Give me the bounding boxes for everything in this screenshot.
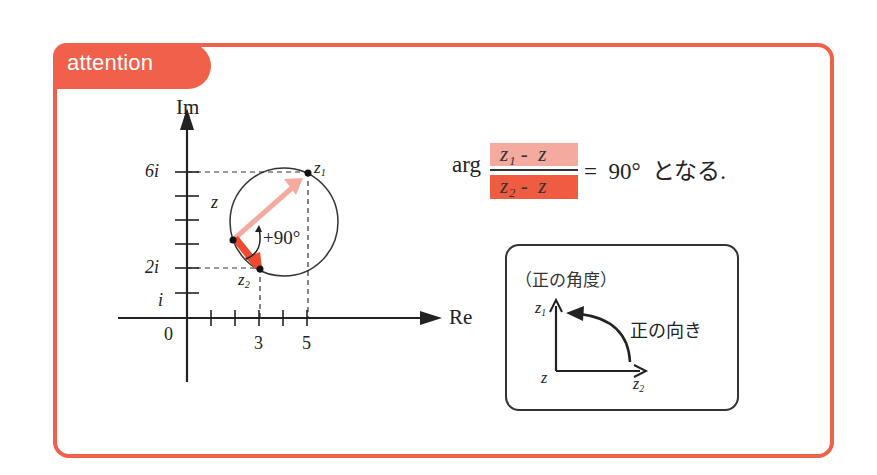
re-axis-arrow-icon	[420, 311, 442, 325]
inset-z2-label: z2	[633, 375, 644, 394]
inset-direction-label: 正の向き	[630, 316, 702, 342]
point-z	[230, 237, 237, 244]
x-tick-label-3: 3	[254, 333, 263, 354]
point-z2	[257, 266, 264, 273]
point-z-label: z	[211, 192, 218, 213]
point-z1-label: z1	[314, 158, 326, 178]
fraction-bar	[490, 169, 578, 171]
re-axis-label: Re	[449, 305, 472, 330]
inset-z1-label: z1	[535, 299, 546, 318]
formula-result: = 90° となる.	[584, 152, 726, 186]
x-tick-label-5: 5	[302, 333, 311, 354]
y-tick-label-i: i	[158, 290, 163, 311]
point-z2-label: z2	[238, 270, 250, 290]
formula-denominator: z₂ - z	[490, 175, 578, 199]
complex-plane-graph	[0, 0, 877, 475]
y-tick-label-2i: 2i	[145, 257, 159, 278]
y-tick-label-6i: 6i	[145, 161, 159, 182]
point-z1	[305, 170, 312, 177]
angle-label: +90°	[263, 227, 300, 249]
circle	[230, 168, 338, 276]
origin-label: 0	[164, 324, 173, 345]
inset-z-label: z	[541, 369, 547, 387]
formula-arg: arg	[452, 152, 481, 178]
formula-numerator: z₁ - z	[490, 143, 578, 166]
inset-title: （正の角度）	[515, 266, 617, 291]
angle-arc-arrow-icon	[255, 225, 262, 232]
im-axis-label: Im	[176, 95, 199, 120]
